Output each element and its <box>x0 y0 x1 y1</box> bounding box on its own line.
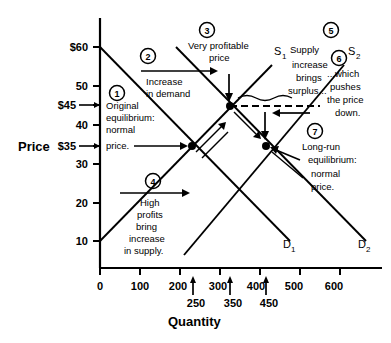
annotation-3-text: Very profitable price <box>188 40 249 63</box>
annotation-7-line-4: price. <box>311 181 334 192</box>
annotation-7-text: Long-run equilibrium: normal price. <box>302 141 357 192</box>
label-d2-sub: 2 <box>366 245 371 254</box>
x-marker-350: 350 <box>224 297 242 309</box>
annotation-6-line-4: down. <box>335 107 360 118</box>
step-number-2: 2 <box>141 49 156 64</box>
step-number-1: 1 <box>110 86 125 101</box>
step-number-6-label: 6 <box>336 54 341 64</box>
equilibrium-points <box>188 102 270 150</box>
annotation-4-line-2: profits <box>137 209 163 220</box>
step-number-3: 3 <box>200 23 215 38</box>
x-tick-500: 500 <box>285 280 303 292</box>
x-quantity-markers: 250 350 450 <box>187 276 278 309</box>
x-tick-0: 0 <box>97 280 103 292</box>
annotation-7-line-1: Long-run <box>302 141 340 152</box>
equilibrium-point-very-profitable <box>226 102 234 110</box>
y-axis-tick-labels: $60 50 $45 40 $35 30 20 10 <box>58 41 88 247</box>
y-tick-40: 40 <box>76 119 88 131</box>
annotation-1-text: Original equilibrium: normal price. <box>106 100 155 151</box>
label-d1: D <box>283 238 291 250</box>
annotation-5-line-3: brings <box>296 72 322 83</box>
y-tick-30: 30 <box>76 158 88 170</box>
y-tick-50: 50 <box>76 80 88 92</box>
y-tick-20: 20 <box>76 197 88 209</box>
x-axis-tick-labels: 0 100 200 300 400 500 600 <box>97 280 343 292</box>
annotation-1-line-3: normal <box>106 124 135 135</box>
annotation-5-line-4: surplus... <box>288 85 327 96</box>
y-tick-60: $60 <box>70 41 88 53</box>
annotation-3-line-2: price <box>209 52 230 63</box>
surplus-brace <box>238 96 292 101</box>
annotation-3-line-1: Very profitable <box>188 40 249 51</box>
annotation-4-line-4: increase <box>129 233 165 244</box>
y-tick-45: $45 <box>58 99 76 111</box>
x-marker-250: 250 <box>187 297 205 309</box>
step-number-5: 5 <box>324 23 339 38</box>
annotation-4-line-3: bring <box>136 221 157 232</box>
label-d2: D <box>358 238 366 250</box>
x-marker-450: 450 <box>260 297 278 309</box>
annotation-6-text: ...which pushes the price down. <box>327 68 363 118</box>
annotation-7-line-3: normal <box>311 168 340 179</box>
step-number-4-label: 4 <box>150 177 155 187</box>
step-number-3-label: 3 <box>204 26 209 36</box>
annotation-4-line-5: in supply. <box>124 245 163 256</box>
annotation-6-line-2: pushes <box>330 81 361 92</box>
annotation-1-line-4: price. <box>106 140 129 151</box>
annotation-6-line-1: ...which <box>327 68 359 79</box>
label-s2-sub: 2 <box>356 52 361 61</box>
annotation-5-line-2: increase <box>292 59 328 70</box>
annotation-2-line-1: Increase <box>146 76 182 87</box>
equilibrium-point-long-run <box>262 142 270 150</box>
label-s1-sub: 1 <box>282 52 287 61</box>
step-number-6: 6 <box>332 51 347 66</box>
x-tick-100: 100 <box>131 280 149 292</box>
x-axis-title: Quantity <box>168 314 221 329</box>
y-axis-title: Price <box>18 139 50 154</box>
x-tick-300: 300 <box>209 280 227 292</box>
label-d1-sub: 1 <box>291 245 296 254</box>
annotation-1-line-2: equilibrium: <box>106 112 155 123</box>
x-tick-600: 600 <box>325 280 343 292</box>
annotation-4-text: High profits bring increase in supply. <box>124 197 165 256</box>
annotation-2-line-2: in demand <box>146 88 190 99</box>
annotation-1-line-1: Original <box>106 100 139 111</box>
step-number-2-label: 2 <box>145 52 150 62</box>
y-tick-10: 10 <box>76 235 88 247</box>
annotation-5-line-1: Supply <box>290 44 319 55</box>
step-number-1-label: 1 <box>114 89 119 99</box>
label-s2: S <box>348 45 355 57</box>
annotation-6-line-3: the price <box>327 94 363 105</box>
step-number-7-label: 7 <box>312 127 317 137</box>
equilibrium-point-original <box>188 142 196 150</box>
annotation-5-text: Supply increase brings surplus... <box>288 44 328 96</box>
annotation-2-text: Increase in demand <box>146 76 190 99</box>
y-tick-35: $35 <box>58 140 76 152</box>
step-number-7: 7 <box>308 124 323 139</box>
chart-svg: $60 50 $45 40 $35 30 20 10 Price 0 100 2… <box>0 0 391 343</box>
step-number-5-label: 5 <box>328 26 333 36</box>
x-tick-400: 400 <box>247 280 265 292</box>
annotation-7-line-2: equilibrium: <box>308 154 357 165</box>
supply-demand-diagram: $60 50 $45 40 $35 30 20 10 Price 0 100 2… <box>0 0 391 343</box>
label-s1: S <box>274 45 281 57</box>
annotation-4-line-1: High <box>140 197 160 208</box>
x-tick-200: 200 <box>169 280 187 292</box>
